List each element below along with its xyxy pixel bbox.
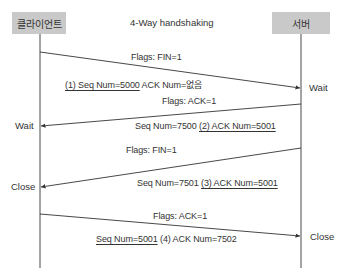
message-2-flags: Flags: ACK=1 (162, 96, 216, 106)
message-2-ack: (2) ACK Num=5001 (199, 121, 276, 131)
message-1-flags: Flags: FIN=1 (131, 52, 182, 62)
message-2-seq: Seq Num=7500 (135, 121, 199, 131)
message-3-ack: (3) ACK Num=5001 (201, 178, 278, 188)
message-1-detail: (1) Seq Num=5000 ACK Num=없음 (65, 78, 202, 91)
server-state-close: Close (310, 231, 334, 242)
message-4-seq: Seq Num=5001 (96, 234, 158, 244)
message-3-flags: Flags: FIN=1 (126, 145, 177, 155)
client-state-wait: Wait (15, 120, 34, 131)
message-4-ack: (4) ACK Num=7502 (158, 234, 237, 244)
message-1-ack: ACK Num=없음 (140, 80, 202, 90)
client-state-close: Close (11, 181, 35, 192)
message-4-detail: Seq Num=5001 (4) ACK Num=7502 (96, 234, 237, 244)
message-4-flags: Flags: ACK=1 (153, 211, 207, 221)
message-3-detail: Seq Num=7501 (3) ACK Num=5001 (137, 178, 278, 188)
message-2-detail: Seq Num=7500 (2) ACK Num=5001 (135, 121, 276, 131)
server-state-wait: Wait (309, 82, 328, 93)
message-1-seq: (1) Seq Num=5000 (65, 80, 140, 90)
message-3-seq: Seq Num=7501 (137, 178, 201, 188)
